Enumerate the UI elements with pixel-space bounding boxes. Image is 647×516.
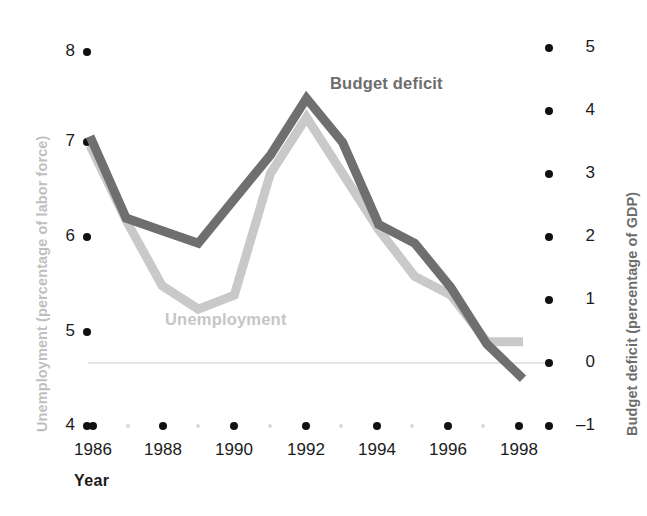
- chart-container: Unemployment (percentage of labor force)…: [0, 0, 647, 516]
- series-line-budget-deficit: [90, 98, 523, 378]
- plot-area: [0, 0, 647, 516]
